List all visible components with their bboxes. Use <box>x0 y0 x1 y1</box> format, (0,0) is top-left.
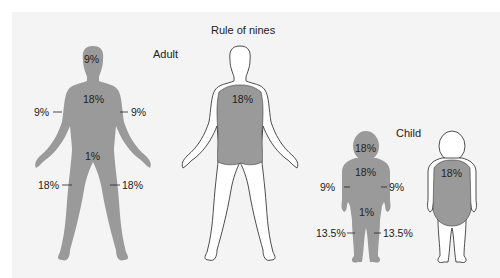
adult-trunk-back-pct: 18% <box>232 94 253 105</box>
adult-genitals-pct: 1% <box>85 151 100 162</box>
adult-label: Adult <box>153 48 178 60</box>
adult-left-leg-pct: 18% <box>38 180 59 191</box>
child-left-leg-pct: 13.5% <box>316 228 346 239</box>
child-right-leg-pct: 13.5% <box>383 228 413 239</box>
child-left-arm-pct: 9% <box>320 182 335 193</box>
child-back-figure <box>428 131 477 263</box>
adult-trunk-front-pct: 18% <box>83 94 104 105</box>
child-genitals-pct: 1% <box>359 207 374 218</box>
body-figures <box>0 0 500 278</box>
child-label: Child <box>396 127 421 139</box>
adult-back-figure <box>182 46 298 260</box>
child-trunk-front-pct: 18% <box>355 167 376 178</box>
adult-right-leg-pct: 18% <box>122 180 143 191</box>
adult-right-arm-pct: 9% <box>131 107 146 118</box>
child-head-pct: 18% <box>355 143 376 154</box>
child-right-arm-pct: 9% <box>389 182 404 193</box>
adult-head-pct: 9% <box>84 54 99 65</box>
adult-left-arm-pct: 9% <box>34 107 49 118</box>
child-trunk-back-pct: 18% <box>441 168 462 179</box>
diagram-title: Rule of nines <box>211 24 275 36</box>
